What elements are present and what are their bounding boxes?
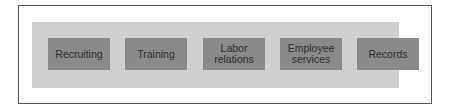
box-training: Training bbox=[125, 38, 187, 70]
box-labor-relations: Labor relations bbox=[203, 38, 265, 70]
box-label-line2: relations bbox=[214, 54, 254, 65]
box-label: Records bbox=[368, 49, 407, 60]
box-label: Training bbox=[137, 49, 175, 60]
box-records: Records bbox=[357, 38, 419, 70]
box-label-line2: services bbox=[292, 54, 331, 65]
box-label: Recruiting bbox=[55, 49, 102, 60]
box-recruiting: Recruiting bbox=[48, 38, 110, 70]
box-employee-services: Employee services bbox=[280, 38, 342, 70]
